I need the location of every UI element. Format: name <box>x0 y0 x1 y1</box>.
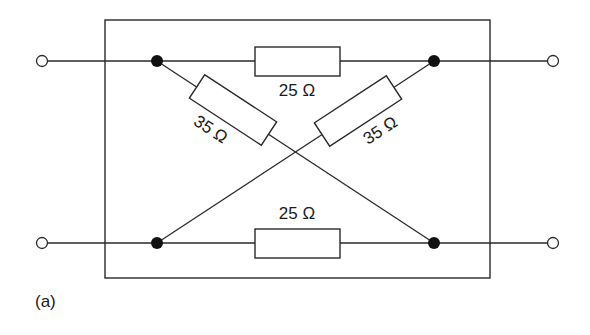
resistor-top <box>255 47 340 76</box>
resistor-diagonal-right-group: 35 Ω <box>314 76 414 167</box>
terminal-output-bottom <box>548 238 559 249</box>
terminal-input-bottom <box>37 238 48 249</box>
resistor-diagonal-left-group: 35 Ω <box>176 75 276 166</box>
node-top-left <box>151 55 163 67</box>
resistor-top-label: 25 Ω <box>279 81 315 100</box>
lattice-circuit-diagram: 25 Ω 25 Ω 35 Ω 35 Ω (a) <box>0 0 590 335</box>
node-top-right <box>428 55 440 67</box>
resistor-bottom <box>255 229 340 258</box>
figure-caption: (a) <box>35 292 56 311</box>
node-bottom-left <box>151 237 163 249</box>
terminal-output-top <box>548 56 559 67</box>
terminal-input-top <box>37 56 48 67</box>
resistor-bottom-label: 25 Ω <box>279 204 315 223</box>
node-bottom-right <box>428 237 440 249</box>
